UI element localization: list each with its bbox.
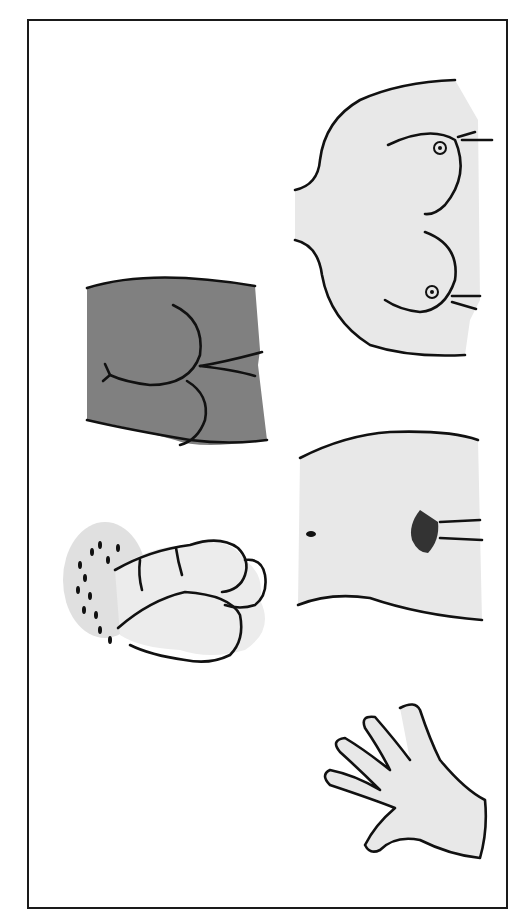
upper-torso-figure bbox=[295, 80, 492, 356]
lower-abdomen-figure bbox=[298, 432, 482, 620]
rear-figure bbox=[87, 277, 267, 445]
anatomy-illustration bbox=[0, 0, 517, 919]
hand-figure bbox=[325, 704, 486, 858]
male-figure bbox=[63, 522, 266, 662]
